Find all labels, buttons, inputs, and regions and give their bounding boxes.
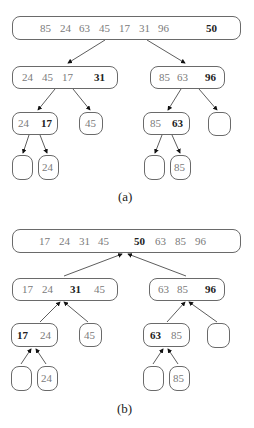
b-left-left-pivot: 17 [17, 330, 28, 341]
b-root-value: 45 [98, 236, 109, 247]
b-ll-left-node-empty [11, 366, 32, 391]
a-right-left-value: 85 [150, 118, 161, 129]
b-left-value: 45 [94, 284, 105, 295]
b-left-left-value: 24 [40, 330, 51, 341]
b-ll-right-value: 24 [41, 373, 52, 384]
b-right-left-pivot: 63 [150, 330, 161, 341]
b-rl-left-node-empty [143, 366, 164, 391]
b-right-pivot: 96 [205, 284, 216, 295]
b-right-value: 85 [177, 284, 188, 295]
b-root-value: 17 [39, 236, 50, 247]
a-left-value: 45 [42, 72, 53, 83]
a-left-pivot: 31 [94, 72, 105, 83]
a-right-value: 63 [177, 72, 188, 83]
a-root-value: 24 [60, 23, 71, 34]
b-right-left-value: 85 [171, 330, 182, 341]
a-right-pivot: 96 [205, 72, 216, 83]
a-root-value: 31 [139, 23, 150, 34]
a-rl-right-value: 85 [174, 162, 185, 173]
a-left-left-value: 24 [18, 118, 29, 129]
a-right-value: 85 [159, 72, 170, 83]
b-left-right-value: 45 [84, 330, 95, 341]
a-root-value: 45 [99, 23, 110, 34]
a-root-value: 17 [119, 23, 130, 34]
b-left-pivot: 31 [70, 284, 81, 295]
b-root-value: 85 [175, 236, 186, 247]
b-root-value: 96 [195, 236, 206, 247]
caption-a: (a) [118, 190, 132, 203]
b-root-value: 63 [155, 236, 166, 247]
b-rl-right-value: 85 [173, 373, 184, 384]
b-root-value: 24 [59, 236, 70, 247]
a-left-right-value: 45 [85, 118, 96, 129]
a-rl-left-node-empty [144, 155, 165, 180]
b-left-value: 24 [42, 284, 53, 295]
a-root-value: 63 [79, 23, 90, 34]
caption-b: (b) [117, 402, 132, 415]
a-ll-left-node-empty [12, 155, 33, 180]
b-left-value: 17 [22, 284, 33, 295]
tree-edges [0, 0, 254, 428]
a-left-left-pivot: 17 [41, 118, 52, 129]
b-right-right-node-empty [207, 323, 230, 348]
a-root-value: 96 [158, 23, 169, 34]
b-right-value: 63 [158, 284, 169, 295]
b-root-value: 31 [79, 236, 90, 247]
b-root-pivot: 50 [134, 236, 145, 247]
a-right-right-node-empty [208, 112, 231, 136]
a-left-value: 24 [22, 72, 33, 83]
a-ll-right-value: 24 [42, 162, 53, 173]
a-left-value: 17 [62, 72, 73, 83]
a-root-pivot: 50 [206, 23, 217, 34]
a-right-left-pivot: 63 [172, 118, 183, 129]
a-root-value: 85 [40, 23, 51, 34]
